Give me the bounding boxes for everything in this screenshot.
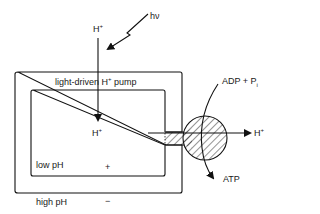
minus-charge-label: − (105, 196, 110, 206)
high-ph-label: high pH (36, 197, 67, 207)
atp-label: ATP (223, 174, 240, 184)
low-ph-label: low pH (36, 160, 64, 170)
proton-label-out: H+ (254, 128, 264, 138)
synthase-head (183, 116, 227, 160)
photon-label: hν (150, 11, 160, 21)
photon-arrow (108, 14, 148, 49)
plus-charge-label: + (105, 162, 110, 172)
atp-synthase (165, 116, 227, 160)
proton-label-top: H+ (93, 24, 103, 34)
pump-label: light-driven H+ pump (55, 77, 137, 87)
proton-label-inside: H+ (92, 128, 102, 138)
adp-pi-label: ADP + Pi (222, 76, 258, 86)
